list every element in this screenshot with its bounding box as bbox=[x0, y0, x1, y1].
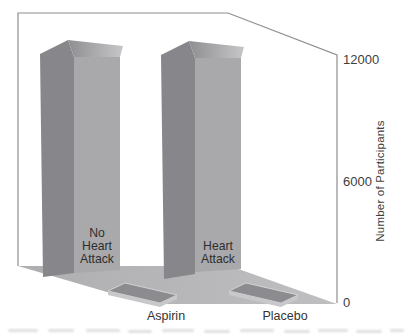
scan-artifact bbox=[8, 329, 404, 333]
bar-label-heart-attack-line-2: Attack bbox=[201, 252, 236, 266]
bar-label-heart-attack-line-1: Heart bbox=[203, 239, 233, 253]
bar-side-face bbox=[161, 41, 195, 279]
chart-figure: No Heart Attack Heart Attack 12000 6000 … bbox=[0, 0, 410, 335]
bar-placebo-no-heart-attack: Heart Attack bbox=[161, 41, 244, 279]
bar-top-face bbox=[189, 41, 244, 58]
y-tick-12000: 12000 bbox=[343, 52, 379, 67]
bar-side-face bbox=[40, 40, 74, 277]
y-axis-title: Number of Participants bbox=[374, 120, 386, 241]
bar-label-no-heart-attack-line-1: No bbox=[89, 226, 105, 240]
x-label-placebo: Placebo bbox=[262, 309, 307, 323]
bar-label-no-heart-attack-line-3: Attack bbox=[80, 252, 115, 266]
y-tick-0: 0 bbox=[343, 295, 350, 310]
bar-label-no-heart-attack-line-2: Heart bbox=[82, 239, 112, 253]
y-tick-6000: 6000 bbox=[343, 174, 372, 189]
bar-aspirin-no-heart-attack: No Heart Attack bbox=[40, 40, 123, 277]
x-label-aspirin: Aspirin bbox=[147, 309, 185, 323]
bar-top-face bbox=[68, 40, 123, 57]
